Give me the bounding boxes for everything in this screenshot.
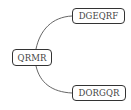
edge-qrmr-dgeqrf <box>36 16 72 49</box>
node-dorgqr-label: DORGQR <box>79 88 120 98</box>
node-dgeqrf: DGEQRF <box>72 8 125 24</box>
node-dorgqr: DORGQR <box>72 85 126 101</box>
node-dgeqrf-label: DGEQRF <box>79 11 119 21</box>
node-qrmr-label: QRMR <box>18 53 47 63</box>
edge-qrmr-dorgqr <box>36 66 72 93</box>
node-qrmr: QRMR <box>12 49 52 66</box>
